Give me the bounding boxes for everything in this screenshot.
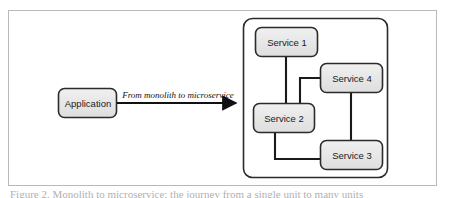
monolith-to-microservice-arrow-label: From monolith to microservice	[121, 90, 234, 100]
service-1-node-label: Service 1	[267, 37, 307, 48]
service-3-node-label: Service 3	[332, 150, 372, 161]
figure-root: Application From monolith to microservic…	[0, 0, 449, 198]
figure-caption: Figure 2. Monolith to microservice: the …	[10, 189, 430, 198]
figure-caption-text: Figure 2. Monolith to microservice: the …	[10, 189, 430, 198]
service-2-node-label: Service 2	[264, 113, 304, 124]
service-4-node-label: Service 4	[332, 73, 372, 84]
architecture-diagram: Application From monolith to microservic…	[0, 0, 449, 198]
application-node-label: Application	[65, 98, 111, 109]
